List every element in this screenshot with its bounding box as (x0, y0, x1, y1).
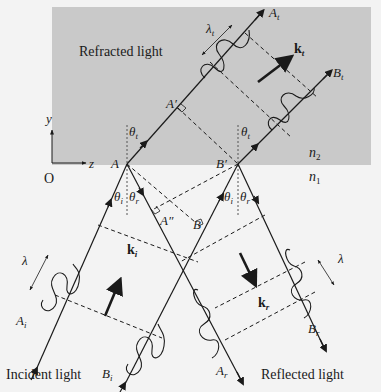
point-a-label: A (111, 157, 119, 170)
reflected-wave-vector-label: kr (258, 296, 269, 312)
point-b-label: B (193, 218, 201, 231)
incident-angle-b: θi (224, 190, 233, 206)
point-a-double-prime-label: A″ (160, 214, 173, 227)
incident-angle-a: θi (114, 190, 123, 206)
reflected-light-caption: Reflected light (261, 368, 344, 382)
point-a-prime-label: A′ (166, 97, 177, 110)
origin-label: O (44, 172, 54, 186)
reflected-angle-b: θr (240, 190, 250, 206)
reflected-angle-a: θr (129, 190, 139, 206)
transmitted-angle-a: θt (129, 125, 138, 141)
transmitted-wave-vector-label: kt (294, 42, 304, 58)
transmitted-angle-b: θt (241, 125, 250, 141)
transmitted-wavelength-label: λt (206, 22, 214, 38)
transmitted-b-label: Bt (333, 66, 343, 82)
incident-b-label: Bi (102, 367, 112, 383)
upper-medium-index: n2 (309, 146, 321, 162)
incident-light-caption: Incident light (6, 368, 81, 382)
incident-a-label: Ai (16, 314, 26, 330)
reflected-wavelength-label: λ (338, 252, 344, 265)
y-axis-label: y (46, 112, 52, 125)
incident-wave-vector-label: ki (127, 243, 137, 259)
transmitted-a-label: At (269, 6, 279, 22)
lower-medium-index: n1 (309, 170, 321, 186)
ray-diagram (0, 0, 381, 392)
incident-wavelength-label: λ (22, 254, 28, 267)
refracted-light-caption: Refracted light (79, 45, 163, 59)
point-b-prime-label: B′ (216, 157, 227, 170)
reflected-a-label: Ar (216, 364, 227, 380)
z-axis-label: z (89, 157, 94, 170)
reflected-b-label: Br (308, 322, 319, 338)
optics-figure: Refracted light Incident light Reflected… (0, 0, 381, 392)
